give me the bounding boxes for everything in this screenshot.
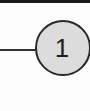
step-node-circle: 1 xyxy=(35,20,90,76)
top-border xyxy=(0,0,90,3)
connector-line xyxy=(0,49,36,51)
step-number: 1 xyxy=(55,35,69,61)
